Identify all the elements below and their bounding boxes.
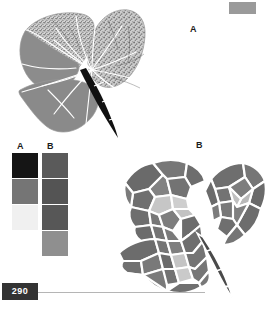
figure-page: A B xyxy=(0,0,269,309)
leaf-diagram-b xyxy=(115,145,269,300)
legend-headers: A B xyxy=(12,140,78,153)
legend-swatch-b-2 xyxy=(42,179,68,204)
color-legend: A B xyxy=(12,140,78,258)
leaf-b-cells xyxy=(119,160,266,293)
footer-rule xyxy=(38,292,205,293)
region-upper-right-lobe xyxy=(88,10,145,88)
page-number-badge: 290 xyxy=(2,283,38,300)
page-footer: 290 xyxy=(0,283,269,305)
legend-swatch-b-3 xyxy=(42,205,68,230)
figure-panel-a xyxy=(8,6,156,142)
legend-column-b xyxy=(42,153,69,257)
legend-header-b: B xyxy=(47,142,54,151)
leaf-diagram-a xyxy=(8,6,156,142)
figure-panel-b xyxy=(115,145,269,300)
legend-swatch-b-4 xyxy=(42,231,68,256)
legend-columns xyxy=(12,153,78,258)
legend-swatch-b-1 xyxy=(42,153,68,178)
legend-swatch-a-1 xyxy=(12,153,38,178)
legend-column-a xyxy=(12,153,39,231)
legend-swatch-a-3 xyxy=(12,205,38,230)
legend-header-a: A xyxy=(17,142,24,151)
corner-marker-rectangle xyxy=(229,2,256,14)
panel-label-a: A xyxy=(190,25,197,34)
legend-swatch-a-2 xyxy=(12,179,38,204)
